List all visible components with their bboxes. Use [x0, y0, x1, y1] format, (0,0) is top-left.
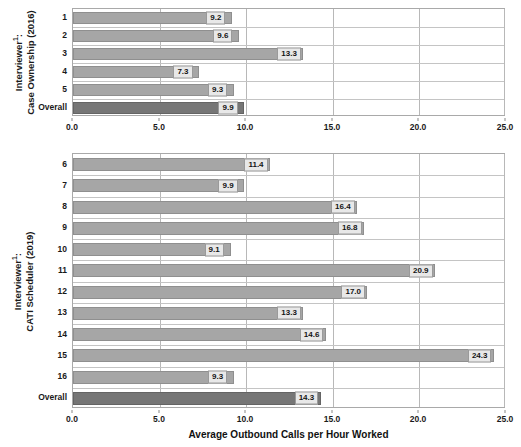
- x-axis-tick-label: 15.0: [324, 414, 341, 424]
- x-axis-tick-label: 0.0: [66, 414, 78, 424]
- x-axis-title: Average Outbound Calls per Hour Worked: [72, 429, 505, 440]
- chart-panel-cati-scheduler: Interviewer1: CATI Scheduler (2019) 6789…: [0, 145, 521, 425]
- bar-value-label: 7.3: [173, 66, 192, 79]
- gridline: [333, 154, 334, 407]
- bar: [73, 48, 303, 59]
- x-tick-mark: [245, 410, 246, 413]
- y-axis-title-bottom: Interviewer1: CATI Scheduler (2019): [6, 155, 40, 408]
- y-axis-tick-label: 15: [58, 350, 67, 360]
- y-axis-tick-label: 6: [62, 159, 67, 169]
- bar: [73, 201, 357, 214]
- y-axis-tick-label: 5: [62, 84, 67, 94]
- row-separator: [73, 218, 504, 219]
- y-axis-tick-label: 13: [58, 307, 67, 317]
- y-axis-tick-labels-top: 12345Overall: [40, 8, 70, 116]
- y-axis-tick-label: 12: [58, 286, 67, 296]
- y-axis-tick-label: 14: [58, 329, 67, 339]
- y-axis-tick-label: Overall: [38, 102, 67, 112]
- y-axis-tick-label: 9: [62, 222, 67, 232]
- plot-area-bottom: 11.49.916.416.89.120.917.013.314.624.39.…: [72, 153, 505, 408]
- row-separator: [73, 27, 504, 28]
- row-separator: [73, 45, 504, 46]
- gridline: [246, 154, 247, 407]
- bar-value-label: 9.3: [208, 84, 227, 97]
- bar-value-label: 16.4: [331, 201, 355, 214]
- bar-value-label: 14.6: [300, 328, 324, 341]
- row-separator: [73, 303, 504, 304]
- y-axis-tick-label: 11: [58, 265, 67, 275]
- bar-value-label: 9.6: [213, 30, 232, 43]
- row-separator: [73, 175, 504, 176]
- x-axis-tick-label: 10.0: [237, 122, 254, 132]
- y-axis-tick-label: 7: [62, 180, 67, 190]
- bar: [73, 158, 270, 171]
- bar-value-label: 20.9: [409, 264, 433, 277]
- gridline: [419, 154, 420, 407]
- gridline: [504, 9, 505, 115]
- y-axis-tick-labels-bottom: 678910111213141516Overall: [40, 153, 70, 408]
- y-axis-tick-label: 2: [62, 30, 67, 40]
- row-separator: [73, 324, 504, 325]
- bar-value-label: 13.3: [277, 48, 301, 61]
- bar-overall: [73, 392, 321, 405]
- bar-value-label: 11.4: [244, 158, 267, 171]
- x-axis-tick-label: 20.0: [410, 414, 427, 424]
- x-tick-mark: [332, 410, 333, 413]
- row-separator: [73, 367, 504, 368]
- x-tick-mark: [418, 410, 419, 413]
- y-axis-tick-label: 3: [62, 48, 67, 58]
- y-axis-tick-label: 10: [58, 244, 67, 254]
- y-axis-title-bottom-line2: CATI Scheduler (2019): [25, 231, 37, 331]
- bar: [73, 222, 364, 235]
- x-axis-tick-label: 0.0: [66, 122, 78, 132]
- y-axis-tick-label: Overall: [38, 392, 67, 402]
- y-axis-tick-label: 16: [58, 371, 67, 381]
- y-axis-title-bottom-line1: Interviewer1:: [13, 253, 24, 310]
- x-tick-mark: [159, 118, 160, 121]
- row-separator: [73, 99, 504, 100]
- bar: [73, 328, 326, 341]
- y-axis-title-top-line2: Case Ownership (2016): [25, 11, 37, 116]
- row-separator: [73, 388, 504, 389]
- x-axis-tick-label: 20.0: [410, 122, 427, 132]
- bar-value-label: 9.2: [206, 12, 225, 25]
- x-tick-mark: [332, 118, 333, 121]
- x-tick-mark: [418, 118, 419, 121]
- gridline: [504, 154, 505, 407]
- x-axis-tick-label: 25.0: [497, 414, 514, 424]
- bar-value-label: 13.3: [277, 307, 301, 320]
- chart-panel-case-ownership: Interviewer1: Case Ownership (2016) 1234…: [0, 0, 521, 140]
- plot-area-top: 9.29.613.37.39.39.9: [72, 8, 505, 116]
- row-separator: [73, 239, 504, 240]
- row-separator: [73, 282, 504, 283]
- x-axis-tick-label: 15.0: [324, 122, 341, 132]
- x-tick-mark: [505, 118, 506, 121]
- x-axis-tick-label: 25.0: [497, 122, 514, 132]
- y-axis-tick-label: 8: [62, 201, 67, 211]
- row-separator: [73, 197, 504, 198]
- bar-value-label: 16.8: [338, 222, 362, 235]
- row-separator: [73, 81, 504, 82]
- bar-value-label: 9.1: [205, 243, 224, 256]
- x-tick-mark: [159, 410, 160, 413]
- row-separator: [73, 260, 504, 261]
- x-axis-tick-label: 5.0: [153, 414, 165, 424]
- x-tick-mark: [72, 118, 73, 121]
- bar-value-label: 14.3: [295, 392, 319, 405]
- x-tick-mark: [505, 410, 506, 413]
- x-axis-tick-label: 5.0: [153, 122, 165, 132]
- bar: [73, 286, 367, 299]
- x-tick-mark: [245, 118, 246, 121]
- bar: [73, 349, 494, 362]
- x-axis-tick-label: 10.0: [237, 414, 254, 424]
- y-axis-tick-label: 4: [62, 66, 67, 76]
- row-separator: [73, 345, 504, 346]
- x-tick-mark: [72, 410, 73, 413]
- bar-value-label: 17.0: [341, 286, 365, 299]
- y-axis-tick-label: 1: [62, 12, 67, 22]
- y-axis-title-top: Interviewer1: Case Ownership (2016): [6, 10, 40, 116]
- bar-value-label: 9.9: [218, 102, 237, 115]
- bar-value-label: 24.3: [468, 349, 492, 362]
- x-axis-ticks-bottom: 0.05.010.015.020.025.0: [72, 410, 505, 424]
- bar-value-label: 9.3: [208, 371, 227, 384]
